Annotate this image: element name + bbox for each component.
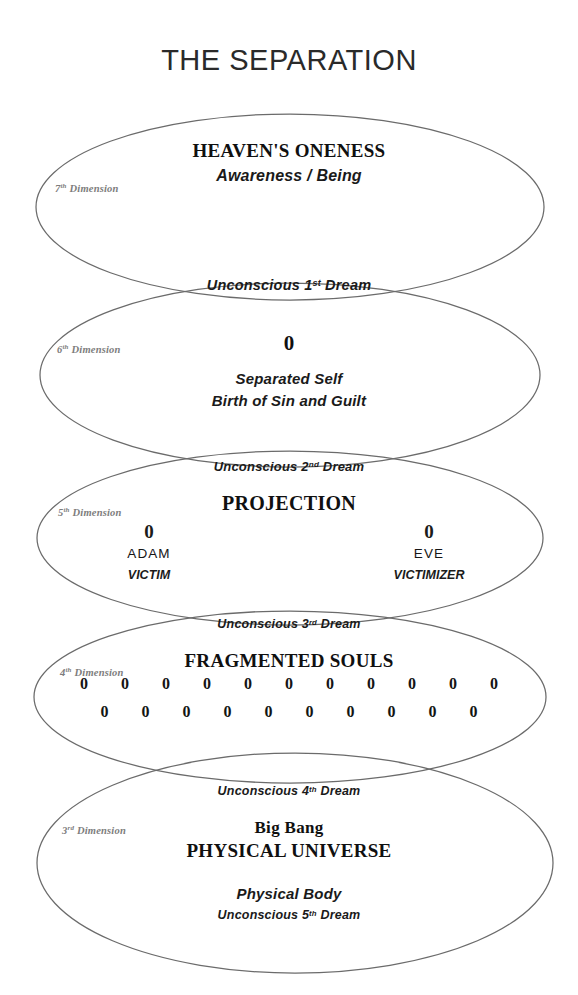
symbol-eve: 0: [374, 521, 484, 543]
label-birth-of-sin-and-guilt: Birth of Sin and Guilt: [0, 392, 578, 411]
fragmented-soul-symbol: 0: [84, 703, 125, 721]
label-victim: VICTIM: [94, 568, 204, 582]
fragmented-soul-symbol: 0: [330, 703, 371, 721]
fragmented-soul-symbol: 0: [269, 675, 310, 693]
fragmented-soul-symbol: 0: [187, 675, 228, 693]
heading-heavens-oneness: HEAVEN'S ONENESS: [0, 140, 578, 161]
heading-projection: PROJECTION: [0, 492, 578, 514]
fragmented-soul-symbol: 0: [125, 703, 166, 721]
symbol-separated-self: 0: [0, 331, 578, 356]
projection-symbol-row: 0 0: [0, 521, 578, 543]
overlap-label-unconscious-2nd-dream: Unconscious 2nd Dream: [0, 459, 578, 475]
label-unconscious-5th-dream: Unconscious 5th Dream: [0, 908, 578, 924]
label-eve: EVE: [374, 546, 484, 561]
label-adam: ADAM: [94, 546, 204, 561]
overlap-label-unconscious-1st-dream: Unconscious 1st Dream: [0, 276, 578, 294]
heading-physical-universe: PHYSICAL UNIVERSE: [0, 840, 578, 861]
fragmented-soul-symbol: 0: [207, 703, 248, 721]
fragmented-soul-symbol: 0: [105, 675, 146, 693]
projection-role-row: VICTIM VICTIMIZER: [0, 568, 578, 582]
fragmented-soul-symbol: 0: [371, 703, 412, 721]
fragmented-soul-symbol: 0: [392, 675, 433, 693]
label-big-bang: Big Bang: [0, 818, 578, 837]
projection-name-row: ADAM EVE: [0, 546, 578, 561]
fragmented-soul-symbol: 0: [351, 675, 392, 693]
symbol-adam: 0: [94, 521, 204, 543]
fragmented-soul-symbol: 0: [64, 675, 105, 693]
fragmented-soul-symbol: 0: [289, 703, 330, 721]
fragmented-soul-symbol: 0: [166, 703, 207, 721]
fragmented-soul-symbol: 0: [248, 703, 289, 721]
fragmented-soul-symbol: 0: [474, 675, 515, 693]
heading-fragmented-souls: FRAGMENTED SOULS: [0, 650, 578, 671]
separation-diagram: THE SEPARATION 7th Dimension HEAVEN'S ON…: [0, 0, 578, 995]
fragmented-soul-symbol: 0: [228, 675, 269, 693]
label-separated-self: Separated Self: [0, 370, 578, 389]
overlap-label-unconscious-3rd-dream: Unconscious 3rd Dream: [0, 617, 578, 633]
overlap-label-unconscious-4th-dream: Unconscious 4th Dream: [0, 784, 578, 800]
fragmented-soul-symbol: 0: [146, 675, 187, 693]
fragmented-soul-symbol: 0: [310, 675, 351, 693]
label-physical-body: Physical Body: [0, 885, 578, 904]
fragmented-soul-symbol: 0: [433, 675, 474, 693]
subheading-awareness-being: Awareness / Being: [0, 166, 578, 186]
fragmented-soul-symbol: 0: [412, 703, 453, 721]
fragmented-souls-row-2: 0000000000: [0, 703, 578, 721]
fragmented-souls-row-1: 00000000000: [0, 675, 578, 693]
fragmented-soul-symbol: 0: [453, 703, 494, 721]
diagram-text-layer: 7th Dimension HEAVEN'S ONENESS Awareness…: [0, 0, 578, 995]
label-victimizer: VICTIMIZER: [374, 568, 484, 582]
